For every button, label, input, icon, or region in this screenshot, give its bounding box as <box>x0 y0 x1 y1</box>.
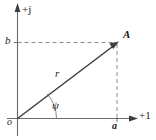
vector-oa-line <box>18 46 115 119</box>
vector-oa <box>18 42 120 119</box>
real-axis-arrowhead <box>129 116 138 122</box>
origin-label: o <box>7 117 12 127</box>
point-a-label: A <box>123 29 130 40</box>
imaginary-component-label: b <box>5 35 11 46</box>
real-axis-label: +1 <box>139 110 151 121</box>
magnitude-label: r <box>55 68 59 79</box>
vector-diagram-figure: +j b A r ψ o a +1 <box>0 0 156 140</box>
real-axis <box>7 116 138 122</box>
real-component-label: a <box>112 121 117 131</box>
imaginary-axis-arrowhead <box>15 3 21 12</box>
imaginary-axis-label: +j <box>22 4 31 15</box>
angle-label: ψ <box>52 100 59 111</box>
diagram-canvas <box>0 0 156 140</box>
